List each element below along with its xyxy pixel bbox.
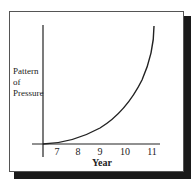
y-axis-label-line-2: of — [13, 77, 44, 88]
y-axis-label: Pattern of Pressure — [13, 66, 44, 99]
x-axis-label: Year — [92, 157, 112, 168]
x-tick-label: 10 — [120, 147, 130, 157]
x-tick-label: 8 — [76, 147, 81, 157]
x-tick-label: 7 — [55, 147, 60, 157]
pressure-curve — [43, 26, 154, 144]
x-tick-label: 11 — [147, 147, 157, 157]
y-axis-label-line-3: Pressure — [13, 88, 44, 99]
y-axis-label-line-1: Pattern — [13, 66, 44, 77]
x-tick-label: 9 — [98, 147, 103, 157]
